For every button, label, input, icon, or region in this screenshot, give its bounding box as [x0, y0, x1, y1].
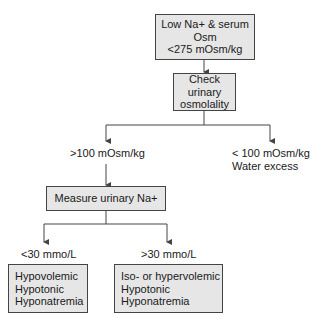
low-osm-line1: < 100 mOsm/kg [232, 147, 310, 160]
start-line1: Low Na+ & serum Osm [156, 18, 254, 43]
check-line1: Check urinary [174, 73, 235, 98]
isohyper-line2: Hypotonic [121, 283, 222, 296]
hypovolemic-line3: Hyponatremia [15, 295, 87, 308]
isohyper-line3: Hyponatremia [121, 295, 222, 308]
check-urine-osm-box: Check urinary osmolality [173, 73, 236, 111]
start-box: Low Na+ & serum Osm <275 mOsm/kg [155, 14, 255, 60]
isohyper-line1: Iso- or hypervolemic [121, 270, 222, 283]
hypovolemic-line2: Hypotonic [15, 283, 87, 296]
high-osm-label: >100 mOsm/kg [70, 147, 145, 160]
low-osm-line2: Water excess [232, 160, 310, 173]
hypovolemic-box: Hypovolemic Hypotonic Hyponatremia [8, 264, 88, 313]
low-osm-label: < 100 mOsm/kg Water excess [232, 147, 310, 172]
start-line2: <275 mOsm/kg [168, 43, 243, 56]
check-line2: osmolality [180, 98, 229, 111]
measure-na-label: Measure urinary Na+ [54, 192, 157, 205]
high-na-label: >30 mmo/L [141, 248, 196, 261]
isohyper-box: Iso- or hypervolemic Hypotonic Hyponatre… [114, 264, 223, 313]
hypovolemic-line1: Hypovolemic [15, 270, 87, 283]
low-na-label: <30 mmo/L [21, 248, 76, 261]
measure-na-box: Measure urinary Na+ [46, 186, 166, 211]
